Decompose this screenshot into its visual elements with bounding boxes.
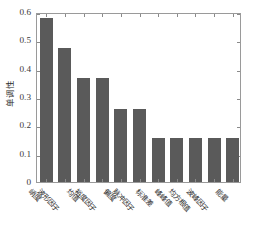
plot-area bbox=[36, 13, 241, 183]
y-tick-mark bbox=[37, 14, 40, 15]
x-tick-mark bbox=[177, 179, 178, 182]
x-tick-label: 能量 bbox=[213, 186, 231, 204]
y-tick-mark-right bbox=[237, 99, 240, 100]
x-tick-mark-top bbox=[46, 14, 47, 17]
x-tick-mark bbox=[195, 179, 196, 182]
bar bbox=[96, 78, 109, 182]
x-tick-mark-top bbox=[84, 14, 85, 17]
bar bbox=[208, 138, 221, 182]
x-tick-mark bbox=[46, 179, 47, 182]
x-tick-mark bbox=[214, 179, 215, 182]
bar bbox=[133, 109, 146, 182]
x-tick-mark bbox=[84, 179, 85, 182]
x-tick-mark-top bbox=[233, 14, 234, 17]
x-tick-mark-top bbox=[195, 14, 196, 17]
bar bbox=[189, 138, 202, 182]
y-tick-label: 0.3 bbox=[20, 93, 31, 102]
bar bbox=[77, 78, 90, 182]
x-tick-mark bbox=[121, 179, 122, 182]
bar bbox=[170, 138, 183, 182]
x-tick-mark-top bbox=[102, 14, 103, 17]
y-tick-mark-right bbox=[237, 71, 240, 72]
y-tick-label: 0.2 bbox=[20, 122, 31, 131]
x-tick-mark bbox=[102, 179, 103, 182]
x-tick-mark bbox=[140, 179, 141, 182]
x-tick-mark-top bbox=[140, 14, 141, 17]
bar bbox=[152, 138, 165, 182]
y-tick-label: 0.5 bbox=[20, 37, 31, 46]
x-tick-mark-top bbox=[65, 14, 66, 17]
y-tick-label: 0.6 bbox=[20, 8, 31, 17]
x-tick-mark bbox=[158, 179, 159, 182]
x-tick-mark bbox=[65, 179, 66, 182]
y-tick-label: 0.4 bbox=[20, 65, 31, 74]
y-tick-label: 0.1 bbox=[20, 150, 31, 159]
y-tick-mark-right bbox=[237, 14, 240, 15]
bar bbox=[226, 138, 239, 182]
bar-chart: 单调性 00.10.20.30.40.50.6 峭度波形因子均值裕度因子偏度脉冲… bbox=[0, 0, 253, 238]
x-tick-mark bbox=[233, 179, 234, 182]
y-axis-tick-labels: 00.10.20.30.40.50.6 bbox=[10, 0, 34, 190]
bar bbox=[114, 109, 127, 182]
y-tick-mark-right bbox=[237, 42, 240, 43]
y-tick-mark-right bbox=[237, 127, 240, 128]
x-tick-mark-top bbox=[214, 14, 215, 17]
bar bbox=[58, 48, 71, 182]
x-tick-mark-top bbox=[177, 14, 178, 17]
x-tick-mark-top bbox=[158, 14, 159, 17]
x-tick-mark-top bbox=[121, 14, 122, 17]
x-axis-tick-labels: 峭度波形因子均值裕度因子偏度脉冲因子标准差峰峰值均方根值波峰因子能量 bbox=[0, 183, 253, 238]
bar bbox=[40, 18, 53, 182]
